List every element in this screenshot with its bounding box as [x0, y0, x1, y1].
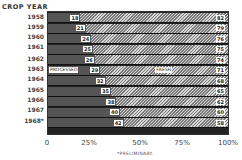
bar-row-1967: 4060	[48, 108, 228, 118]
bar-row-1966: 3862	[48, 97, 228, 107]
fresh-value: 76	[216, 36, 225, 42]
bar-row-1958: 1882	[48, 13, 228, 23]
y-label: 1961	[0, 43, 44, 50]
fresh-value: 58	[216, 120, 225, 126]
fresh-value: 68	[216, 78, 225, 84]
fresh-segment: 79	[86, 24, 228, 33]
y-label: 1965	[0, 86, 44, 93]
processed-segment: 24	[48, 34, 91, 43]
plot-area: 1882217924762575267429PROCESSED71FRESH32…	[47, 11, 229, 135]
bar-row-1962: 2674	[48, 55, 228, 65]
bar-row-1960: 2476	[48, 34, 228, 44]
footnote: *PRELIMINARY.	[117, 151, 153, 156]
fresh-value: 62	[216, 99, 225, 105]
bar-row-1963: 29PROCESSED71FRESH	[48, 66, 228, 76]
processed-segment: 40	[48, 108, 120, 117]
bar-row-1968: 4258	[48, 118, 228, 128]
processed-segment: 25	[48, 45, 93, 54]
processed-segment: 21	[48, 24, 86, 33]
y-label: 1960	[0, 33, 44, 40]
processed-value: 21	[76, 25, 85, 31]
fresh-segment: 60	[120, 108, 228, 117]
x-tick: 50%	[132, 139, 148, 147]
chart-title: CROP YEAR	[2, 3, 48, 11]
fresh-value: 65	[216, 88, 225, 94]
y-label: 1959	[0, 23, 44, 30]
processed-value: 18	[70, 15, 79, 21]
fresh-segment: 58	[124, 118, 228, 127]
bar-row-1965: 3565	[48, 87, 228, 97]
bar-row-1959: 2179	[48, 24, 228, 34]
processed-segment: 42	[48, 118, 124, 127]
y-label: 1967	[0, 106, 44, 113]
processed-value: 26	[85, 57, 94, 63]
fresh-value: 79	[216, 25, 225, 31]
processed-value: 32	[96, 78, 105, 84]
fresh-value: 74	[216, 57, 225, 63]
processed-segment: 32	[48, 76, 106, 85]
fresh-segment: 82	[80, 13, 228, 22]
y-label: 1962	[0, 55, 44, 62]
processed-segment: 29PROCESSED	[48, 66, 100, 75]
fresh-value: 60	[216, 109, 225, 115]
processed-segment: 35	[48, 87, 111, 96]
fresh-segment: 75	[93, 45, 228, 54]
bar-row-1961: 2575	[48, 45, 228, 55]
processed-legend-label: PROCESSED	[49, 67, 78, 73]
processed-value: 40	[110, 109, 119, 115]
processed-segment: 38	[48, 97, 116, 106]
fresh-segment: 76	[91, 34, 228, 43]
fresh-value: 82	[216, 15, 225, 21]
fresh-value: 71	[216, 67, 225, 73]
x-tick: 0	[45, 139, 49, 147]
y-label: 1968*	[0, 117, 44, 124]
x-tick: 25%	[81, 139, 97, 147]
y-label: 1958	[0, 13, 44, 20]
x-tick: 100%	[218, 139, 238, 147]
fresh-segment: 68	[106, 76, 228, 85]
processed-value: 24	[81, 36, 90, 42]
fresh-legend-label: FRESH	[155, 67, 172, 73]
y-label: 1964	[0, 75, 44, 82]
y-label: 1963	[0, 65, 44, 72]
fresh-segment: 74	[95, 55, 228, 64]
fresh-segment: 62	[116, 97, 228, 106]
y-label: 1966	[0, 96, 44, 103]
x-tick: 75%	[174, 139, 190, 147]
processed-value: 38	[106, 99, 115, 105]
processed-value: 42	[114, 120, 123, 126]
processed-segment: 26	[48, 55, 95, 64]
processed-value: 25	[83, 46, 92, 52]
fresh-segment: 71FRESH	[100, 66, 228, 75]
fresh-value: 75	[216, 46, 225, 52]
processed-value: 29	[90, 67, 99, 73]
fresh-segment: 65	[111, 87, 228, 96]
processed-segment: 18	[48, 13, 80, 22]
bar-row-1964: 3268	[48, 76, 228, 86]
processed-value: 35	[101, 88, 110, 94]
